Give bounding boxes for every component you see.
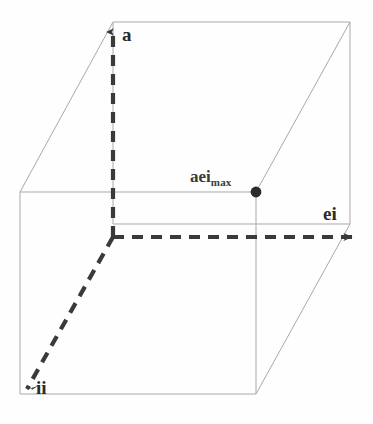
cube-edge-connect-top-right <box>256 22 350 192</box>
cube-edges <box>20 22 350 394</box>
cube-edge-connect-bottom-right <box>256 224 350 394</box>
aei-max-label-subscript: max <box>211 176 232 188</box>
cube-wireframe-svg <box>0 0 373 424</box>
a-axis-label: a <box>122 25 132 44</box>
aei-max-dot <box>251 187 262 198</box>
axis-lines <box>27 32 352 389</box>
diagram-canvas: a ei ii aeimax <box>0 0 373 424</box>
ei-axis-label: ei <box>323 204 337 223</box>
aei-max-label-main: aei <box>190 167 211 186</box>
aei-max-marker <box>251 187 262 198</box>
ii-axis-line <box>27 237 113 389</box>
aei-max-label: aeimax <box>190 168 232 188</box>
cube-edge-connect-top-left <box>20 22 113 192</box>
ii-axis-label: ii <box>36 378 47 397</box>
